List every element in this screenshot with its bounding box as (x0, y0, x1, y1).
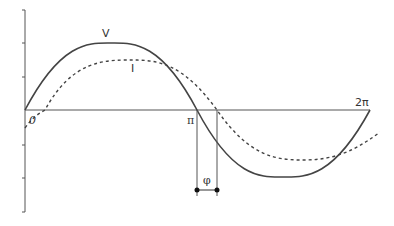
current-label: I (131, 63, 134, 74)
phase-dot-left (195, 188, 200, 193)
phase-diagram (0, 0, 394, 226)
phase-label: φ (203, 175, 211, 186)
phase-dot-right (215, 188, 220, 193)
origin-label: 0 (29, 115, 36, 126)
pi-label: π (187, 115, 194, 126)
two-pi-label: 2π (355, 97, 369, 108)
voltage-label: V (102, 28, 110, 39)
